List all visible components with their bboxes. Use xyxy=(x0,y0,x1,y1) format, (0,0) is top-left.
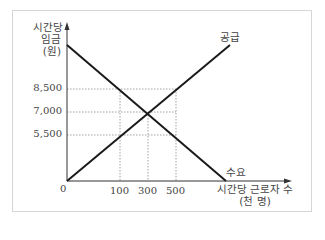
x-tick-100: 100 xyxy=(110,185,129,196)
y-axis-label-line1: 시간당 xyxy=(33,21,61,33)
y-tick-7000: 7,000 xyxy=(22,105,62,116)
x-tick-300: 300 xyxy=(138,185,157,196)
y-axis-arrow-icon xyxy=(65,22,70,30)
supply-label: 공급 xyxy=(220,31,240,43)
x-axis-label: 시간당 근로자 수 (천 명) xyxy=(216,183,294,207)
demand-label: 수요 xyxy=(226,166,246,178)
y-axis-label-line3: (원) xyxy=(33,45,61,57)
y-axis-label-line2: 임금 xyxy=(33,33,61,45)
origin-label: 0 xyxy=(60,183,66,194)
x-axis-label-line2: (천 명) xyxy=(216,195,294,207)
y-tick-5500: 5,500 xyxy=(22,128,62,139)
y-tick-8500: 8,500 xyxy=(22,82,62,93)
x-axis-label-line1: 시간당 근로자 수 xyxy=(216,183,294,195)
x-tick-500: 500 xyxy=(166,185,185,196)
axes xyxy=(67,28,286,181)
y-axis-label: 시간당 임금 (원) xyxy=(33,21,61,57)
